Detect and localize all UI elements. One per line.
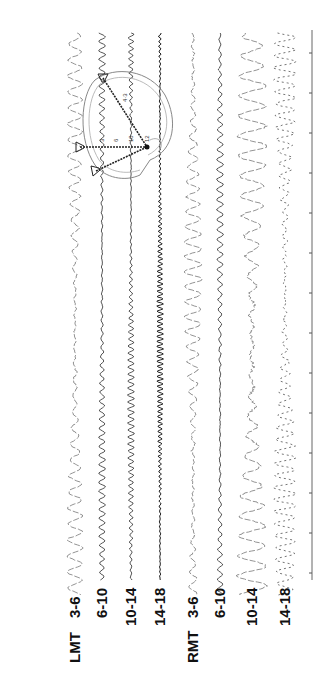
time-axis bbox=[309, 30, 312, 580]
waveform-trace bbox=[127, 33, 134, 580]
band-label-rmt-3-6: 3-6 bbox=[184, 596, 201, 618]
eeg-chart: 3 6 10 12 4·3 LMT 3-6 6-10 10-14 14-18 R… bbox=[0, 0, 326, 683]
head-diagram: 3 6 10 12 4·3 bbox=[76, 72, 173, 179]
eeg-plot-area: 3 6 10 12 4·3 bbox=[0, 0, 326, 683]
waveform-trace bbox=[217, 33, 224, 595]
waveform-trace bbox=[273, 33, 296, 595]
band-label-lmt-10-14: 10-14 bbox=[122, 588, 139, 626]
band-label-rmt-6-10: 6-10 bbox=[211, 588, 228, 618]
band-label-lmt-14-18: 14-18 bbox=[151, 588, 168, 626]
electrode-line-lower bbox=[96, 147, 147, 171]
group-label-rmt: RMT bbox=[184, 631, 201, 664]
group-label-lmt: LMT bbox=[66, 632, 83, 663]
electrode-cup-icon bbox=[91, 166, 100, 176]
waveform-trace bbox=[99, 33, 106, 580]
electrode-center-icon bbox=[145, 145, 150, 150]
band-label-rmt-14-18: 14-18 bbox=[276, 588, 293, 626]
waveform-traces bbox=[67, 33, 296, 595]
electrode-line-upper bbox=[103, 78, 147, 147]
waveform-trace bbox=[236, 33, 267, 595]
band-label-rmt-10-14: 10-14 bbox=[243, 588, 260, 626]
waveform-trace bbox=[184, 33, 202, 595]
waveform-trace bbox=[157, 33, 164, 580]
waveform-trace bbox=[67, 33, 83, 595]
band-label-lmt-3-6: 3-6 bbox=[66, 596, 83, 618]
electrode-label: 6 bbox=[113, 138, 119, 142]
electrode-label: 4·3 bbox=[122, 93, 128, 102]
electrode-label: 12 bbox=[144, 135, 150, 142]
band-label-lmt-6-10: 6-10 bbox=[93, 588, 110, 618]
electrode-label: 10 bbox=[128, 135, 134, 142]
